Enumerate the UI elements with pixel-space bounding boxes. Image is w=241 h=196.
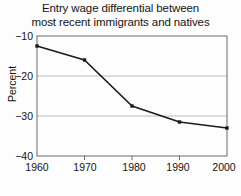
gridlines [37,76,227,116]
data-point-marker [83,58,86,61]
data-point-marker [130,104,133,107]
data-point-marker [35,44,38,47]
data-point-markers [35,44,228,129]
x-axis-ticks [85,156,180,160]
data-point-marker [225,126,228,129]
data-point-marker [178,120,181,123]
chart-figure: Entry wage differential between most rec… [0,0,241,196]
chart-plot-area [0,0,241,196]
